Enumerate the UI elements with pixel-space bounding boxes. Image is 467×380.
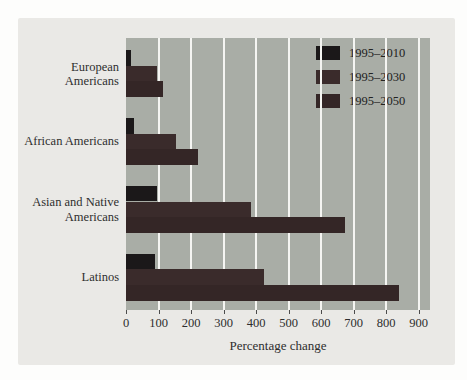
legend-label: 1995–2050 (349, 94, 405, 109)
legend-item: 1995–2010 (316, 46, 405, 60)
gridline-800 (385, 38, 387, 310)
tick-mark (354, 310, 355, 314)
x-axis-title: Percentage change (126, 338, 430, 354)
bar (126, 217, 345, 233)
tick-mark (126, 310, 127, 314)
bar (126, 134, 176, 150)
gridline-900 (418, 38, 420, 310)
category-label: Latinos (19, 270, 126, 284)
bar (126, 269, 264, 285)
bar (126, 149, 198, 165)
tick-mark (289, 310, 290, 314)
legend: 1995–20101995–20301995–2050 (316, 46, 405, 118)
category-label: Asian and Native Americans (19, 195, 126, 224)
bar (126, 81, 163, 97)
tick-label: 500 (279, 316, 298, 331)
tick-label: 800 (377, 316, 396, 331)
tick-label: 100 (149, 316, 168, 331)
gridline-600 (320, 38, 322, 310)
legend-item: 1995–2050 (316, 94, 405, 108)
plot-area: 1995–20101995–20301995–2050 (126, 38, 430, 310)
gridline-700 (353, 38, 355, 310)
tick-mark (386, 310, 387, 314)
tick-mark (224, 310, 225, 314)
legend-item: 1995–2030 (316, 70, 405, 84)
tick-mark (256, 310, 257, 314)
legend-label: 1995–2010 (349, 46, 405, 61)
tick-label: 0 (123, 316, 129, 331)
category-label: European Americans (19, 59, 126, 88)
tick-label: 300 (214, 316, 233, 331)
tick-mark (191, 310, 192, 314)
bar (126, 254, 155, 270)
tick-mark (321, 310, 322, 314)
category-axis-labels: European AmericansAfrican AmericansAsian… (18, 38, 126, 310)
tick-label: 200 (182, 316, 201, 331)
tick-mark (419, 310, 420, 314)
bar (126, 50, 131, 66)
figure-panel: European AmericansAfrican AmericansAsian… (18, 18, 455, 365)
category-label: African Americans (19, 134, 126, 148)
tick-label: 900 (409, 316, 428, 331)
gridline-500 (288, 38, 290, 310)
bar (126, 285, 399, 301)
bar (126, 202, 251, 218)
bar (126, 186, 157, 202)
tick-label: 700 (344, 316, 363, 331)
tick-label: 400 (247, 316, 266, 331)
bar (126, 66, 157, 82)
bar (126, 118, 134, 134)
tick-label: 600 (312, 316, 331, 331)
legend-label: 1995–2030 (349, 70, 405, 85)
tick-mark (159, 310, 160, 314)
x-axis: 0100200300400500600700800900 (126, 310, 430, 340)
